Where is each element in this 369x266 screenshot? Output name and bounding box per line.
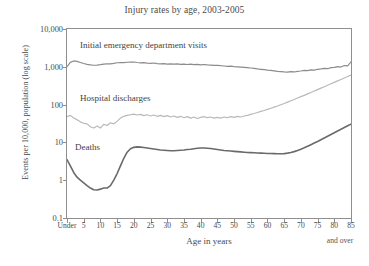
y-tick-mark xyxy=(63,29,67,30)
chart-container: Injury rates by age, 2003-2005 Events pe… xyxy=(0,0,369,266)
x-tick-label: 20 xyxy=(130,221,138,230)
x-tick-label: 80 xyxy=(330,221,338,230)
plot-area: Initial emergency department visits Hosp… xyxy=(66,28,352,219)
series-label-emergency-visits: Initial emergency department visits xyxy=(80,40,207,50)
x-tick-label: 15 xyxy=(113,221,121,230)
x-tick-label: 70 xyxy=(297,221,305,230)
chart-title: Injury rates by age, 2003-2005 xyxy=(0,5,369,15)
y-tick-label: 100 xyxy=(50,100,63,109)
y-tick-mark xyxy=(63,105,67,106)
y-tick-label: 10,000 xyxy=(40,25,63,34)
x-tick-label: 30 xyxy=(163,221,171,230)
x-tick-label: 35 xyxy=(180,221,188,230)
series-line xyxy=(67,124,351,190)
series-line xyxy=(67,61,351,72)
y-tick-mark xyxy=(63,142,67,143)
series-lines xyxy=(67,29,351,218)
x-tick-label: Under xyxy=(58,221,77,230)
y-tick-label: 10 xyxy=(55,138,63,147)
x-tick-label: 75 xyxy=(314,221,322,230)
x-tick-label: 85 xyxy=(347,221,355,230)
y-tick-mark xyxy=(63,180,67,181)
x-tick-label: 65 xyxy=(280,221,288,230)
x-axis-tick-labels: Under510152025303540455055606570758085 xyxy=(66,221,352,235)
x-tick-label: 10 xyxy=(97,221,105,230)
x-tick-label: 40 xyxy=(197,221,205,230)
x-tick-label: 55 xyxy=(247,221,255,230)
x-tick-label: 5 xyxy=(82,221,86,230)
x-tick-label: 45 xyxy=(214,221,222,230)
series-label-hospital-discharges: Hospital discharges xyxy=(80,93,151,103)
y-tick-label: 1,000 xyxy=(44,62,63,71)
x-axis-label: Age in years xyxy=(66,236,352,246)
x-tick-label: 25 xyxy=(147,221,155,230)
series-label-deaths: Deaths xyxy=(75,142,100,152)
y-axis-tick-labels: 10,0001,0001001010.1 xyxy=(0,28,63,219)
x-tick-label: 50 xyxy=(230,221,238,230)
x-axis-note: and over xyxy=(316,236,364,246)
y-tick-mark xyxy=(63,67,67,68)
x-tick-label: 60 xyxy=(264,221,272,230)
